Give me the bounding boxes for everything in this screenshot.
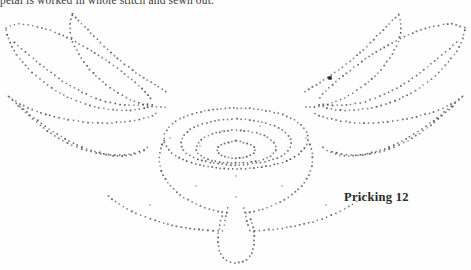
pricking-figure-label: Pricking 12 [344,190,409,205]
start-pin-marker [328,76,331,79]
pricking-page: petal is worked in whole stitch and sewn… [0,0,471,270]
pricking-diagram [0,0,471,270]
pin-hole-dot-layer [5,13,465,264]
